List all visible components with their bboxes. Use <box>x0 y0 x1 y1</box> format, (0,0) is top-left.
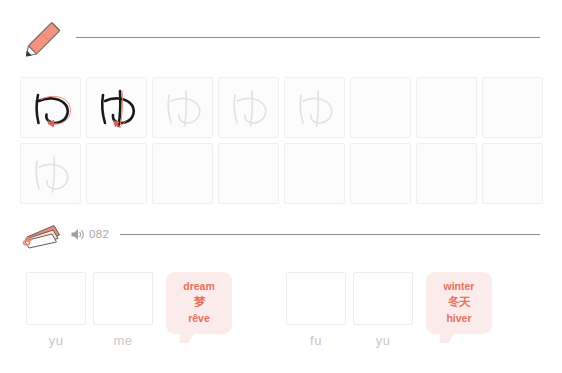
syllable-label: fu <box>310 334 322 347</box>
translation-chinese: 冬天 <box>430 294 488 311</box>
vocab-group: fu yu winter 冬天 hiver <box>286 272 492 347</box>
syllable-write-cell[interactable] <box>26 272 86 325</box>
trace-guide-icon <box>219 78 279 138</box>
trace-guide-icon <box>285 78 345 138</box>
speaker-icon[interactable] <box>70 227 85 242</box>
glyph-cell[interactable] <box>152 77 213 138</box>
translation-bubble: dream 梦 rêve <box>166 272 232 334</box>
syllable-label: yu <box>376 334 391 347</box>
vocab-group: yu me dream 梦 rêve <box>26 272 232 347</box>
vocabulary-area: yu me dream 梦 rêve fu yu winter 冬天 hiver <box>0 272 562 362</box>
glyph-cell[interactable] <box>416 77 477 138</box>
glyph-cell[interactable] <box>218 143 279 204</box>
glyph-cell[interactable] <box>350 143 411 204</box>
syllable-item: me <box>93 272 153 347</box>
translation-chinese: 梦 <box>170 294 228 311</box>
stroke-demo-1-icon <box>21 78 81 138</box>
audio-section-header: 082 <box>0 219 562 249</box>
glyph-cell[interactable] <box>284 77 345 138</box>
syllable-label: yu <box>49 334 64 347</box>
writing-section-header <box>0 13 562 61</box>
syllable-item: yu <box>26 272 86 347</box>
glyph-cell[interactable] <box>218 77 279 138</box>
glyph-cell[interactable] <box>350 77 411 138</box>
glyph-cell[interactable] <box>152 143 213 204</box>
translation-english: dream <box>170 279 228 294</box>
glyph-cell[interactable] <box>20 77 81 138</box>
syllable-item: yu <box>353 272 413 347</box>
glyph-cell[interactable] <box>482 143 543 204</box>
trace-guide-icon <box>21 144 81 204</box>
syllable-write-cell[interactable] <box>353 272 413 325</box>
translation-french: rêve <box>170 311 228 326</box>
glyph-cell[interactable] <box>284 143 345 204</box>
translation-french: hiver <box>430 311 488 326</box>
translation-bubble: winter 冬天 hiver <box>426 272 492 334</box>
syllable-label: me <box>113 334 132 347</box>
glyph-grid-row-2 <box>20 143 543 204</box>
glyph-grid-row-1 <box>20 77 543 138</box>
pencil-icon <box>14 13 76 61</box>
glyph-cell[interactable] <box>482 77 543 138</box>
glyph-cell[interactable] <box>416 143 477 204</box>
glyph-cell[interactable] <box>86 77 147 138</box>
audio-track-number: 082 <box>89 228 109 240</box>
flashcard-deck-icon[interactable] <box>18 219 64 249</box>
syllable-write-cell[interactable] <box>93 272 153 325</box>
translation-english: winter <box>430 279 488 294</box>
syllable-item: fu <box>286 272 346 347</box>
trace-guide-icon <box>153 78 213 138</box>
syllable-write-cell[interactable] <box>286 272 346 325</box>
glyph-cell[interactable] <box>20 143 81 204</box>
header-divider-rule <box>76 37 540 38</box>
glyph-cell[interactable] <box>86 143 147 204</box>
stroke-demo-2-icon <box>87 78 147 138</box>
audio-divider-rule <box>120 234 540 235</box>
